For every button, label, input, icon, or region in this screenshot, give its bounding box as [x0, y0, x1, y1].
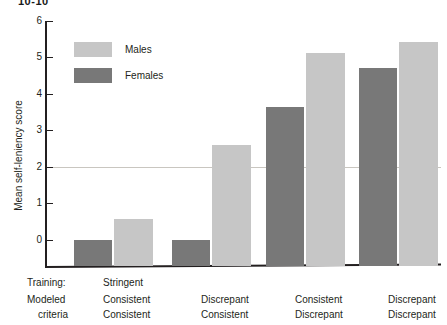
group-label-2-line1: Discrepant: [201, 294, 249, 305]
bar-males-group-2: [212, 145, 251, 266]
bar-females-group-1: [74, 240, 112, 266]
y-tick-3: [47, 130, 53, 131]
group-label-4-line2: Discrepant: [388, 309, 436, 320]
bar-females-group-2: [172, 240, 210, 266]
group-label-1: Consistent Consistent: [103, 294, 150, 320]
legend-swatch-males-icon: [74, 42, 112, 57]
group-label-1-line1: Consistent: [103, 294, 150, 305]
training-value-stringent: Stringent: [103, 277, 143, 288]
y-tick-label-0: 0: [12, 235, 42, 245]
y-tick-6: [47, 21, 53, 22]
y-tick-4: [47, 94, 53, 95]
y-tick-0: [47, 240, 53, 241]
y-tick-5: [47, 57, 53, 58]
legend: Males Females: [74, 41, 163, 93]
legend-swatch-females-icon: [74, 68, 112, 83]
group-label-3-line1: Consistent: [295, 294, 343, 305]
bar-males-group-1: [114, 219, 153, 266]
group-label-3: Consistent Discrepant: [295, 294, 343, 320]
row-label-modeled-line1: Modeled: [27, 294, 65, 305]
group-label-1-line2: Consistent: [103, 309, 150, 320]
bar-males-group-4: [399, 42, 438, 266]
legend-item-males: Males: [74, 41, 163, 57]
row-label-training: Training:: [27, 277, 66, 288]
group-label-4: Discrepant Discrepant: [388, 294, 436, 320]
bar-males-group-3: [306, 53, 345, 266]
y-tick-2: [47, 167, 53, 168]
group-label-3-line2: Discrepant: [295, 309, 343, 320]
bar-females-group-4: [359, 68, 397, 266]
y-tick-1: [47, 203, 53, 204]
legend-label-males: Males: [125, 44, 152, 55]
y-tick-label-5: 5: [12, 52, 42, 62]
bar-females-group-3: [266, 107, 304, 266]
legend-label-females: Females: [125, 70, 163, 81]
legend-item-females: Females: [74, 67, 163, 83]
group-label-4-line1: Discrepant: [388, 294, 436, 305]
group-label-2-line2: Consistent: [201, 309, 249, 320]
y-tick-label-6: 6: [12, 16, 42, 26]
y-axis-title: Mean self-leniency score: [13, 86, 24, 226]
y-axis-line: [45, 21, 47, 268]
row-label-modeled-line2: criteria: [38, 309, 68, 320]
x-axis-label-block: Training: Modeled criteria Stringent Con…: [0, 272, 447, 325]
chart-figure: 10-10 6 5 4 3 2 1: [0, 0, 447, 325]
group-label-2: Discrepant Consistent: [201, 294, 249, 320]
